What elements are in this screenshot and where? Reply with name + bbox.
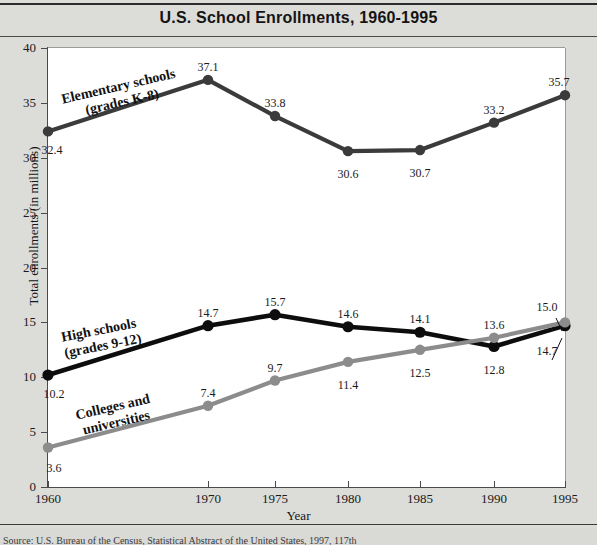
point-value-label: 3.6 (47, 461, 62, 476)
point-value-label: 30.6 (338, 167, 359, 182)
point-value-label: 14.7 (537, 344, 558, 359)
point-value-label: 12.8 (484, 363, 505, 378)
data-point (343, 146, 353, 156)
point-value-label: 33.8 (265, 96, 286, 111)
point-value-label: 33.2 (484, 103, 505, 118)
data-point (43, 442, 53, 452)
chart-page: U.S. School Enrollments, 1960-1995 05101… (0, 0, 597, 545)
data-point (203, 401, 213, 411)
data-point (203, 75, 213, 85)
figure-rule-bottom (0, 524, 597, 525)
data-point (415, 345, 425, 355)
data-point (414, 327, 425, 338)
point-value-label: 10.2 (44, 387, 65, 402)
point-value-label: 14.1 (410, 312, 431, 327)
point-value-label: 14.7 (198, 306, 219, 321)
point-value-label: 32.4 (42, 143, 63, 158)
point-value-label: 30.7 (410, 166, 431, 181)
series-layer (0, 0, 597, 528)
point-value-label: 9.7 (268, 361, 283, 376)
data-point (560, 90, 570, 100)
data-point (270, 111, 280, 121)
point-value-label: 15.7 (265, 295, 286, 310)
data-point (43, 126, 53, 136)
source-note: Source: U.S. Bureau of the Census, Stati… (3, 535, 563, 545)
point-value-label: 12.5 (410, 366, 431, 381)
point-value-label: 7.4 (201, 386, 216, 401)
data-point (269, 309, 280, 320)
data-point (415, 145, 425, 155)
data-point (343, 357, 353, 367)
point-value-label: 13.6 (484, 318, 505, 333)
figure-panel: U.S. School Enrollments, 1960-1995 05101… (0, 0, 597, 528)
point-value-label: 35.7 (549, 75, 570, 90)
data-point (342, 321, 353, 332)
point-value-label: 15.0 (537, 300, 558, 315)
data-point (489, 117, 499, 127)
data-point (270, 375, 280, 385)
data-point (202, 320, 213, 331)
data-point (489, 333, 499, 343)
point-value-label: 37.1 (198, 60, 219, 75)
point-value-label: 14.6 (338, 307, 359, 322)
point-value-label: 11.4 (338, 378, 359, 393)
data-point (42, 369, 53, 380)
data-point (560, 317, 570, 327)
